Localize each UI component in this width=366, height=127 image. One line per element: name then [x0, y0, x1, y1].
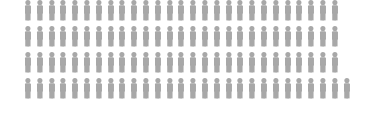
- person-icon: [128, 21, 140, 47]
- person-icon: [270, 47, 282, 73]
- person-icon: [57, 0, 69, 21]
- person-icon: [34, 73, 46, 99]
- person-icon: [128, 0, 140, 21]
- pictogram-row: [22, 73, 352, 99]
- person-icon: [152, 47, 164, 73]
- person-icon: [270, 21, 282, 47]
- person-icon: [116, 0, 128, 21]
- person-icon: [22, 47, 34, 73]
- person-icon: [329, 0, 341, 21]
- person-icon: [93, 0, 105, 21]
- person-icon: [46, 47, 58, 73]
- person-icon: [105, 21, 117, 47]
- person-icon: [329, 21, 341, 47]
- person-icon: [199, 21, 211, 47]
- person-icon: [246, 0, 258, 21]
- person-icon: [128, 73, 140, 99]
- person-icon: [34, 21, 46, 47]
- person-icon: [22, 21, 34, 47]
- pictogram-row: [22, 0, 352, 21]
- person-icon: [317, 47, 329, 73]
- person-icon: [234, 73, 246, 99]
- person-icon: [258, 0, 270, 21]
- person-icon: [305, 21, 317, 47]
- person-icon: [258, 73, 270, 99]
- person-icon: [34, 0, 46, 21]
- person-icon: [152, 21, 164, 47]
- person-icon: [164, 47, 176, 73]
- person-icon: [116, 73, 128, 99]
- person-icon: [270, 73, 282, 99]
- person-icon: [46, 73, 58, 99]
- person-icon: [317, 73, 329, 99]
- person-icon: [199, 73, 211, 99]
- person-icon: [341, 73, 353, 99]
- person-icon: [57, 47, 69, 73]
- person-icon: [317, 0, 329, 21]
- person-icon: [258, 47, 270, 73]
- person-icon: [293, 0, 305, 21]
- person-icon: [211, 21, 223, 47]
- person-icon: [81, 0, 93, 21]
- person-icon: [22, 73, 34, 99]
- person-icon: [187, 73, 199, 99]
- person-icon: [199, 47, 211, 73]
- person-icon: [93, 73, 105, 99]
- person-icon: [175, 73, 187, 99]
- pictogram-icon-grid: [22, 0, 352, 99]
- person-icon: [22, 0, 34, 21]
- person-icon: [199, 0, 211, 21]
- person-icon: [293, 47, 305, 73]
- person-icon: [152, 73, 164, 99]
- person-icon: [152, 0, 164, 21]
- person-icon: [223, 21, 235, 47]
- person-icon: [234, 21, 246, 47]
- person-icon: [234, 47, 246, 73]
- person-icon: [305, 47, 317, 73]
- person-icon: [293, 21, 305, 47]
- person-icon: [105, 47, 117, 73]
- person-icon: [282, 47, 294, 73]
- person-icon: [164, 73, 176, 99]
- person-icon: [69, 47, 81, 73]
- person-icon: [116, 21, 128, 47]
- person-icon: [69, 73, 81, 99]
- person-icon: [317, 21, 329, 47]
- person-icon: [187, 0, 199, 21]
- person-icon: [140, 21, 152, 47]
- person-icon: [223, 0, 235, 21]
- person-icon: [187, 21, 199, 47]
- person-icon: [293, 73, 305, 99]
- person-icon: [93, 21, 105, 47]
- person-icon: [211, 73, 223, 99]
- person-icon: [305, 0, 317, 21]
- pictogram-row: [22, 47, 352, 73]
- pictogram-row: [22, 21, 352, 47]
- person-icon: [128, 47, 140, 73]
- person-icon: [140, 47, 152, 73]
- person-icon: [223, 47, 235, 73]
- person-icon: [69, 21, 81, 47]
- person-icon: [34, 47, 46, 73]
- person-icon: [211, 47, 223, 73]
- person-icon: [175, 21, 187, 47]
- person-icon: [81, 21, 93, 47]
- person-icon: [93, 47, 105, 73]
- person-icon: [140, 0, 152, 21]
- person-icon: [46, 21, 58, 47]
- person-icon: [116, 47, 128, 73]
- person-icon: [105, 0, 117, 21]
- person-icon: [246, 47, 258, 73]
- person-icon: [305, 73, 317, 99]
- pictogram-chart: [0, 0, 366, 127]
- person-icon: [69, 0, 81, 21]
- person-icon: [270, 0, 282, 21]
- person-icon: [282, 73, 294, 99]
- person-icon: [81, 73, 93, 99]
- person-icon: [164, 21, 176, 47]
- person-icon: [187, 47, 199, 73]
- person-icon: [282, 21, 294, 47]
- person-icon: [175, 0, 187, 21]
- person-icon: [46, 0, 58, 21]
- person-icon: [223, 73, 235, 99]
